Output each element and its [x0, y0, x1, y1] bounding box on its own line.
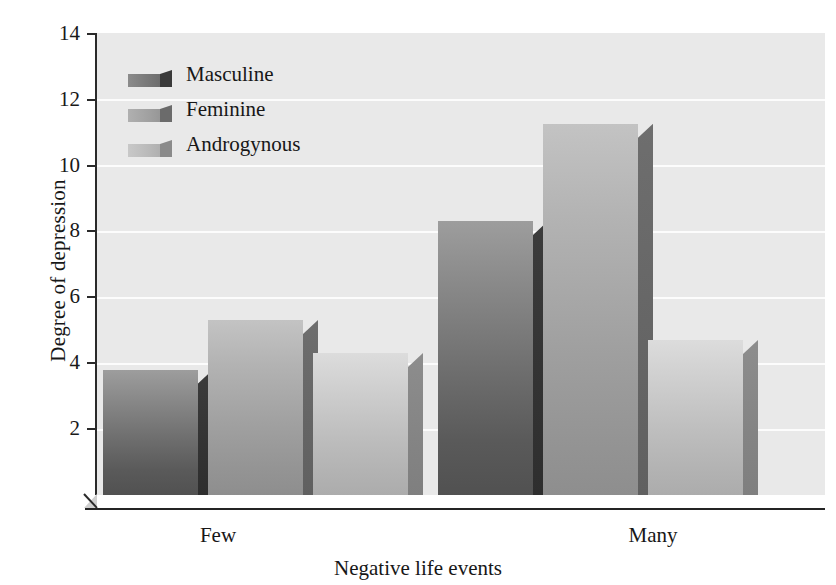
bar-androgynous-few: [313, 353, 408, 495]
y-tick-label-12: 12: [40, 87, 80, 112]
legend-item-masculine: Masculine: [128, 62, 408, 97]
y-tick-label-6: 6: [40, 284, 80, 309]
swatch-side-face: [160, 70, 172, 87]
legend-swatch-feminine: [128, 105, 172, 122]
bar-chart-figure: Degree of depression 14 12 10 8 6 4 2: [0, 0, 836, 585]
bar-side-face: [743, 340, 758, 495]
legend-label-masculine: Masculine: [186, 62, 273, 87]
y-tick-label-2: 2: [40, 416, 80, 441]
y-tick-label-14: 14: [40, 21, 80, 46]
x-axis-baseline: [85, 508, 825, 510]
legend-swatch-androgynous: [128, 140, 172, 157]
bar-masculine-many: [438, 221, 533, 495]
x-category-label-few: Few: [118, 523, 318, 548]
legend-item-androgynous: Androgynous: [128, 132, 408, 167]
bar-front-face: [208, 320, 303, 495]
legend-label-androgynous: Androgynous: [186, 132, 300, 157]
swatch-side-face: [160, 140, 172, 157]
bar-side-face: [408, 353, 423, 495]
bar-front-face: [103, 370, 198, 495]
bar-feminine-few: [208, 320, 303, 495]
legend-item-feminine: Feminine: [128, 97, 408, 132]
bar-front-face: [648, 340, 743, 495]
bar-front-face: [313, 353, 408, 495]
swatch-front-face: [128, 109, 160, 122]
legend: Masculine Feminine Androgynous: [128, 62, 408, 167]
bar-front-face: [543, 124, 638, 495]
bar-feminine-many: [543, 124, 638, 495]
y-tick-label-10: 10: [40, 153, 80, 178]
swatch-front-face: [128, 144, 160, 157]
legend-label-feminine: Feminine: [186, 97, 265, 122]
x-category-label-many: Many: [553, 523, 753, 548]
bar-masculine-few: [103, 370, 198, 495]
bar-androgynous-many: [648, 340, 743, 495]
swatch-side-face: [160, 105, 172, 122]
swatch-front-face: [128, 74, 160, 87]
legend-swatch-masculine: [128, 70, 172, 87]
x-axis-title: Negative life events: [0, 556, 836, 581]
y-tick-label-4: 4: [40, 350, 80, 375]
y-tick-label-8: 8: [40, 218, 80, 243]
bar-front-face: [438, 221, 533, 495]
